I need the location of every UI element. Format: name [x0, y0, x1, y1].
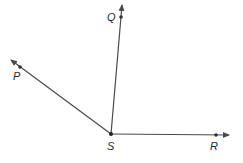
label-s: S [107, 140, 115, 152]
point-q [119, 15, 123, 19]
point-r [214, 133, 218, 137]
label-q: Q [107, 11, 116, 23]
vertex-s [109, 132, 113, 136]
ray-sp [11, 60, 111, 134]
label-r: R [210, 140, 218, 152]
label-p: P [13, 70, 21, 82]
angle-diagram: Q P R S [0, 0, 243, 163]
ray-sq [111, 5, 122, 134]
ray-sr [111, 134, 229, 135]
point-p [18, 65, 22, 69]
